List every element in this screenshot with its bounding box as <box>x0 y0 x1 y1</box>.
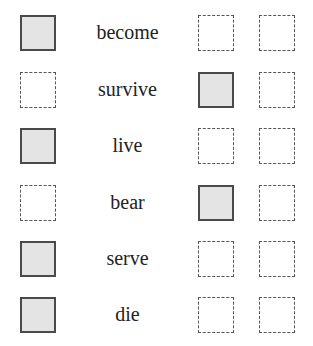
empty-dashed-box[interactable] <box>198 297 234 333</box>
empty-dashed-box[interactable] <box>259 72 295 108</box>
word-label: survive <box>70 75 185 103</box>
word-row: die <box>0 297 313 337</box>
word-row: bear <box>0 185 313 225</box>
empty-dashed-box[interactable] <box>20 72 56 108</box>
empty-dashed-box[interactable] <box>259 15 295 51</box>
word-row: survive <box>0 72 313 112</box>
word-label: serve <box>70 244 185 272</box>
empty-dashed-box[interactable] <box>198 15 234 51</box>
filled-box[interactable] <box>198 185 234 221</box>
word-label: die <box>70 300 185 328</box>
empty-dashed-box[interactable] <box>259 297 295 333</box>
empty-dashed-box[interactable] <box>259 185 295 221</box>
empty-dashed-box[interactable] <box>259 241 295 277</box>
word-row: serve <box>0 241 313 281</box>
word-row: become <box>0 15 313 55</box>
empty-dashed-box[interactable] <box>198 128 234 164</box>
filled-box[interactable] <box>20 241 56 277</box>
empty-dashed-box[interactable] <box>198 241 234 277</box>
empty-dashed-box[interactable] <box>259 128 295 164</box>
empty-dashed-box[interactable] <box>20 185 56 221</box>
filled-box[interactable] <box>20 15 56 51</box>
word-label: live <box>70 131 185 159</box>
filled-box[interactable] <box>20 128 56 164</box>
word-label: become <box>70 18 185 46</box>
filled-box[interactable] <box>198 72 234 108</box>
word-row: live <box>0 128 313 168</box>
filled-box[interactable] <box>20 297 56 333</box>
word-label: bear <box>70 188 185 216</box>
